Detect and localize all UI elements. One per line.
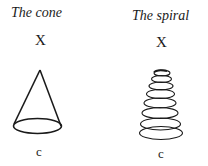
diagram-canvas (0, 0, 208, 166)
spiral-shape (140, 70, 183, 140)
spiral-c-label: c (158, 146, 164, 162)
cone-c-label: c (36, 144, 42, 160)
cone-shape (14, 70, 62, 134)
